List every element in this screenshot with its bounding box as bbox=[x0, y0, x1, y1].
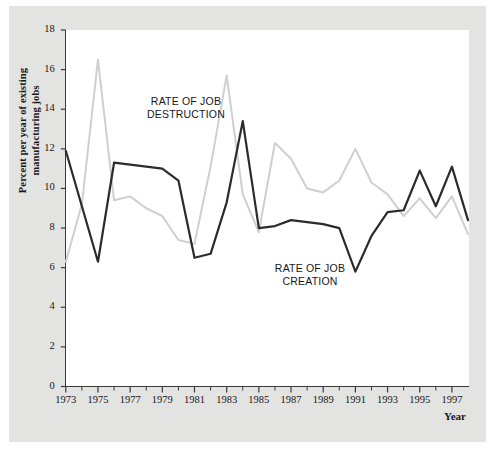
x-axis-title: Year bbox=[444, 410, 466, 422]
chart-svg bbox=[0, 0, 495, 451]
annotation-creation-line1: RATE OF JOB bbox=[254, 262, 366, 275]
x-tick-label: 1979 bbox=[145, 394, 179, 405]
x-tick-label: 1997 bbox=[435, 394, 469, 405]
y-axis-title: Percent per year of existing manufacturi… bbox=[17, 6, 42, 256]
x-tick-label: 1995 bbox=[403, 394, 437, 405]
x-tick-label: 1975 bbox=[81, 394, 115, 405]
y-tick-label: 6 bbox=[33, 261, 55, 272]
y-tick-label: 16 bbox=[33, 63, 55, 74]
x-tick-label: 1991 bbox=[338, 394, 372, 405]
annotation-rate-of-job-destruction: RATE OF JOB DESTRUCTION bbox=[127, 95, 245, 121]
x-tick-label: 1987 bbox=[274, 394, 308, 405]
x-tick-label: 1981 bbox=[178, 394, 212, 405]
y-tick-label: 12 bbox=[33, 142, 55, 153]
x-tick-label: 1973 bbox=[49, 394, 83, 405]
series-line-job-destruction bbox=[66, 60, 468, 262]
annotation-creation-line2: CREATION bbox=[254, 275, 366, 288]
x-tick-label: 1983 bbox=[210, 394, 244, 405]
y-tick-label: 8 bbox=[33, 221, 55, 232]
y-tick-label: 0 bbox=[33, 380, 55, 391]
x-tick-marks bbox=[66, 387, 452, 393]
annotation-destruction-line1: RATE OF JOB bbox=[127, 95, 245, 108]
x-tick-label: 1989 bbox=[306, 394, 340, 405]
y-tick-label: 10 bbox=[33, 181, 55, 192]
x-tick-label: 1985 bbox=[242, 394, 276, 405]
y-tick-label: 18 bbox=[33, 23, 55, 34]
x-tick-label: 1993 bbox=[371, 394, 405, 405]
figure-page: Percent per year of existing manufacturi… bbox=[0, 0, 495, 451]
y-tick-label: 2 bbox=[33, 340, 55, 351]
annotation-rate-of-job-creation: RATE OF JOB CREATION bbox=[254, 262, 366, 288]
annotation-destruction-line2: DESTRUCTION bbox=[127, 108, 245, 121]
y-tick-label: 4 bbox=[33, 300, 55, 311]
y-axis-title-line1: Percent per year of existing bbox=[17, 68, 28, 193]
y-tick-marks bbox=[61, 30, 66, 387]
y-axis-title-line2: manufacturing jobs bbox=[29, 6, 42, 256]
y-tick-label: 14 bbox=[33, 102, 55, 113]
x-tick-label: 1977 bbox=[113, 394, 147, 405]
